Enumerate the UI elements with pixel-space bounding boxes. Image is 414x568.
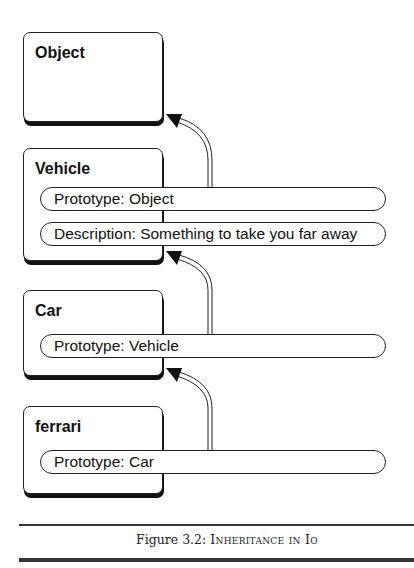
arrowhead-icon (166, 368, 182, 382)
caption-title: Inheritance in Io (210, 532, 318, 547)
arrow-ferrari-to-car (177, 372, 212, 450)
arrowhead-icon (166, 251, 182, 265)
figure-caption: Figure 3.2: Inheritance in Io (0, 532, 414, 547)
arrow-vehicle-to-object (177, 118, 212, 187)
arrow-car-to-vehicle (177, 255, 212, 334)
inheritance-arrows (0, 0, 414, 568)
caption-top-rule (19, 524, 414, 526)
caption-bottom-rule (19, 558, 414, 562)
caption-label: Figure 3.2: (136, 532, 206, 547)
arrowhead-icon (166, 114, 182, 128)
